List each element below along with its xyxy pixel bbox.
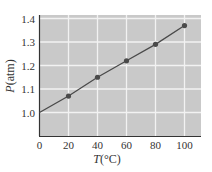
data-point bbox=[95, 75, 100, 80]
x-tick-label: 0 bbox=[37, 139, 43, 151]
y-tick-label: 1.3 bbox=[21, 36, 35, 48]
data-point bbox=[153, 42, 158, 47]
x-tick-label: 40 bbox=[92, 139, 104, 151]
y-axis-label: P(atm) bbox=[3, 59, 17, 93]
x-tick-labels: 020406080100 bbox=[37, 139, 194, 151]
y-tick-label: 1.1 bbox=[21, 83, 35, 95]
y-tick-label: 1.0 bbox=[21, 107, 35, 119]
plot-area bbox=[40, 15, 201, 136]
pressure-temperature-chart: 020406080100 1.01.11.21.31.4 T(°C) P(atm… bbox=[0, 0, 212, 172]
data-point bbox=[124, 58, 129, 63]
x-tick-label: 100 bbox=[176, 139, 193, 151]
x-tick-label: 80 bbox=[150, 139, 162, 151]
data-point bbox=[182, 23, 187, 28]
y-tick-label: 1.2 bbox=[21, 60, 35, 72]
data-point bbox=[66, 93, 71, 98]
y-tick-labels: 1.01.11.21.31.4 bbox=[21, 13, 35, 119]
x-tick-label: 60 bbox=[121, 139, 133, 151]
y-tick-label: 1.4 bbox=[21, 13, 35, 25]
x-axis-label: T(°C) bbox=[93, 152, 120, 166]
x-tick-label: 20 bbox=[63, 139, 75, 151]
